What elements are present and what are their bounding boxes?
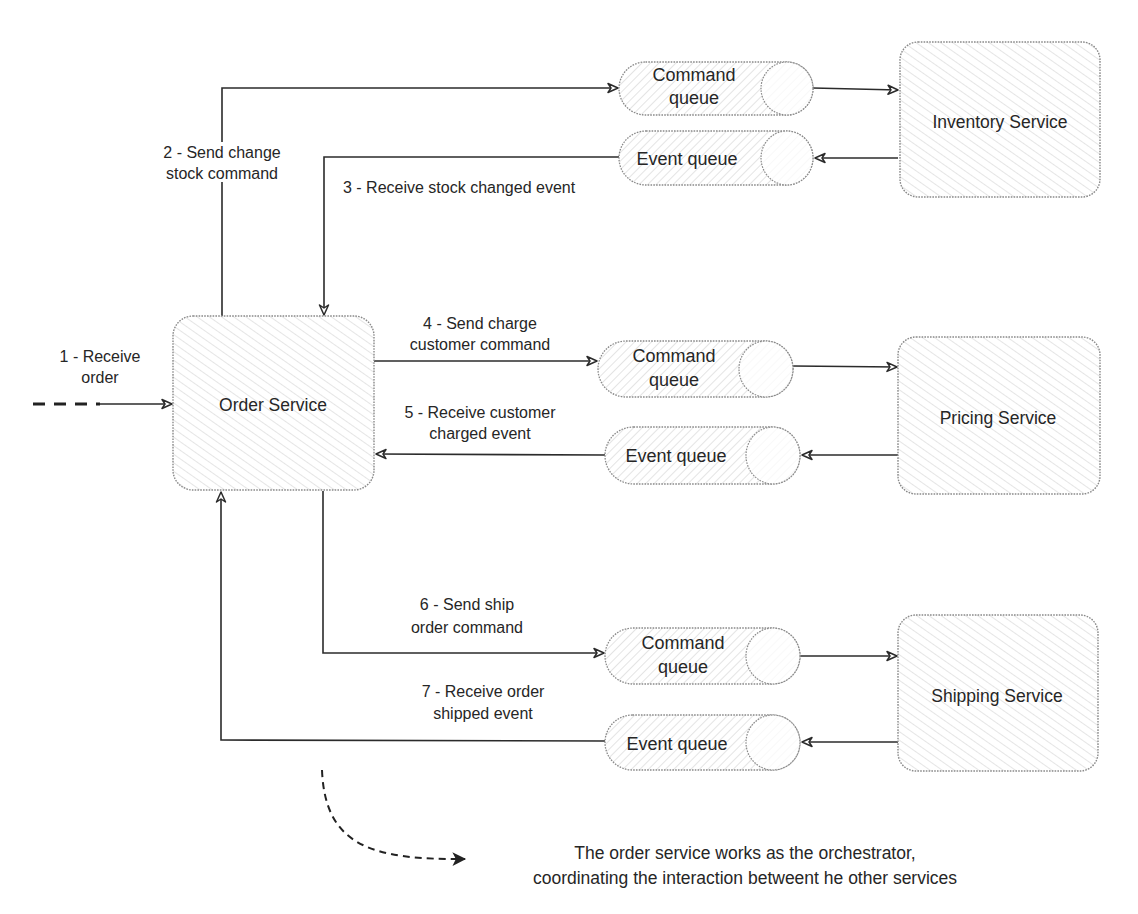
queue-label: Event queue [636, 149, 737, 169]
shipping-event-queue[interactable]: Event queue [605, 715, 800, 770]
pricing-service-box[interactable]: Pricing Service [898, 337, 1100, 494]
step-4-label: 4 - Send charge customer command [410, 315, 551, 353]
step-6-label: 6 - Send ship order command [411, 596, 523, 636]
step-7-connector [221, 492, 605, 741]
pricing-command-queue[interactable]: Command queue [598, 341, 793, 397]
inventory-service-label: Inventory Service [932, 112, 1067, 132]
order-service-label: Order Service [219, 395, 327, 415]
inventory-command-queue[interactable]: Command queue [619, 62, 813, 115]
svg-text:5 - Receive customer: 5 - Receive customer [404, 404, 556, 421]
svg-text:The order service works as the: The order service works as the orchestra… [574, 843, 915, 863]
queue-label: Event queue [626, 734, 727, 754]
svg-text:shipped event: shipped event [433, 705, 533, 722]
queue-label: Event queue [625, 446, 726, 466]
svg-text:1 - Receive: 1 - Receive [60, 348, 141, 365]
shipping-command-queue[interactable]: Command queue [605, 628, 800, 684]
pricing-command-to-service [793, 366, 897, 367]
order-service-box[interactable]: Order Service [173, 316, 374, 490]
svg-text:2 - Send change: 2 - Send change [163, 144, 281, 161]
step-5-label: 5 - Receive customer charged event [404, 404, 556, 442]
queue-label-line1: Command [632, 346, 715, 366]
queue-label-line1: Command [652, 65, 735, 85]
orchestration-diagram: Order Service Inventory Service Pricing … [0, 0, 1138, 914]
svg-text:order: order [81, 369, 119, 386]
svg-text:7 - Receive order: 7 - Receive order [422, 683, 545, 700]
svg-text:4 - Send charge: 4 - Send charge [423, 315, 537, 332]
step-2-connector [222, 88, 618, 316]
pricing-event-queue[interactable]: Event queue [605, 427, 800, 484]
svg-text:customer command: customer command [410, 336, 551, 353]
queue-label-line2: queue [669, 88, 719, 108]
inventory-event-queue[interactable]: Event queue [619, 131, 813, 185]
svg-text:6 - Send ship: 6 - Send ship [420, 596, 514, 613]
pricing-service-label: Pricing Service [940, 408, 1057, 428]
shipping-service-box[interactable]: Shipping Service [898, 615, 1098, 771]
queue-label-line1: Command [641, 633, 724, 653]
inventory-service-box[interactable]: Inventory Service [900, 42, 1100, 197]
step-2-label: 2 - Send change stock command [150, 142, 295, 182]
shipping-service-label: Shipping Service [931, 686, 1062, 706]
svg-text:order command: order command [411, 619, 523, 636]
queue-label-line2: queue [658, 657, 708, 677]
step-7-label: 7 - Receive order shipped event [422, 683, 545, 722]
svg-text:charged event: charged event [429, 425, 531, 442]
orchestrator-note: The order service works as the orchestra… [533, 843, 957, 888]
step-5-connector [376, 454, 605, 455]
step-1-label: 1 - Receive order [48, 348, 158, 388]
svg-text:stock command: stock command [166, 165, 278, 182]
svg-text:coordinating the interaction b: coordinating the interaction betweent he… [533, 868, 957, 888]
note-arrow [322, 770, 465, 859]
queue-label-line2: queue [649, 370, 699, 390]
step-3-label: 3 - Receive stock changed event [343, 179, 576, 196]
inventory-command-to-service [813, 88, 898, 90]
